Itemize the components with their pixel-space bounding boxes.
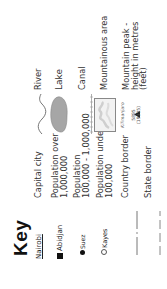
river-label: River bbox=[34, 69, 43, 91]
dot-icon bbox=[80, 250, 85, 255]
large-city-symbol: Abidjan bbox=[56, 225, 64, 259]
canal-label: Canal bbox=[78, 66, 87, 90]
circle-icon bbox=[101, 249, 107, 255]
map-key: Key Nairobi Capital city Abidjan Populat… bbox=[0, 0, 167, 289]
mountain-peak-symbol: Kilimanjaro 5895 (19335) bbox=[120, 98, 141, 132]
small-city-example: Kayes bbox=[101, 229, 109, 248]
lake-label: Lake bbox=[55, 69, 64, 90]
large-city-example: Abidjan bbox=[56, 225, 64, 251]
wavy-line-icon bbox=[37, 94, 47, 134]
state-border-symbol bbox=[147, 211, 166, 255]
lake-icon bbox=[48, 94, 70, 134]
country-border-symbol bbox=[124, 211, 143, 255]
label-line: 100,000 bbox=[105, 127, 114, 198]
medium-city-example: Suez bbox=[79, 235, 86, 249]
medium-city-symbol: Suez bbox=[79, 235, 86, 255]
key-title: Key bbox=[10, 220, 32, 256]
peak-height-feet: (19335) bbox=[136, 98, 141, 132]
label-line: (feet) bbox=[139, 22, 148, 90]
lake-symbol bbox=[48, 94, 74, 134]
dash-dot-line-icon bbox=[135, 211, 139, 255]
capital-city-symbol: Nairobi bbox=[35, 234, 43, 259]
mountainous-area-label: Mountainous area bbox=[100, 16, 109, 90]
relief-shading-icon bbox=[95, 99, 115, 131]
large-city-label: Population over 1,000,000 bbox=[51, 133, 68, 198]
country-border-label: Country border bbox=[121, 135, 130, 198]
small-city-symbol: Kayes bbox=[101, 229, 109, 255]
square-icon bbox=[57, 253, 63, 259]
dashed-line-icon bbox=[158, 211, 162, 255]
small-city-label: Population under 100,000 bbox=[96, 127, 113, 198]
state-border-label: State border bbox=[144, 146, 153, 198]
label-line: 1,000,000 bbox=[60, 133, 69, 198]
mountain-peak-label: Mountain peak - height in metres (feet) bbox=[122, 22, 148, 90]
capital-city-label: Capital city bbox=[34, 151, 43, 198]
mountainous-area-symbol bbox=[94, 98, 116, 132]
